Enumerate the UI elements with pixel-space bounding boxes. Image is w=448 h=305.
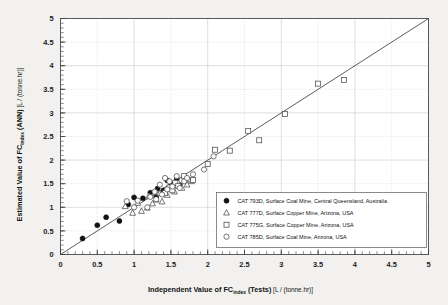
- data-point-filled-circle: [95, 223, 100, 228]
- data-point-open-circle: [167, 179, 172, 184]
- data-point-open-circle: [190, 172, 195, 177]
- data-point-open-circle: [152, 189, 157, 194]
- data-point-open-circle: [165, 187, 170, 192]
- y-axis-tick-label: 2.5: [43, 132, 53, 141]
- data-point-open-circle: [157, 182, 162, 187]
- data-point-open-circle: [174, 174, 179, 179]
- data-point-filled-circle: [140, 196, 145, 201]
- data-point-open-circle: [132, 205, 137, 210]
- data-point-open-square: [213, 147, 218, 152]
- data-point-filled-circle: [104, 215, 109, 220]
- x-axis-tick-label: 2.5: [239, 260, 249, 269]
- legend-item-label: CAT 793D, Surface Coal Mine, Central Que…: [238, 198, 389, 204]
- data-point-open-square: [282, 111, 287, 116]
- data-point-open-square: [227, 148, 232, 153]
- chart-figure: 00.511.522.533.544.5500.511.522.533.544.…: [0, 0, 448, 305]
- x-axis-tick-label: 0.5: [92, 260, 102, 269]
- data-point-open-circle: [145, 205, 150, 210]
- legend-item-label: CAT 777D, Surface Copper Mine, Arizona, …: [238, 210, 354, 216]
- y-axis-title: Estimated Value of FCindex (ANN) [L / (t…: [15, 67, 25, 221]
- x-axis-tick-label: 0: [58, 260, 62, 269]
- scatter-plot: 00.511.522.533.544.5500.511.522.533.544.…: [0, 0, 448, 305]
- data-point-open-circle: [177, 185, 182, 190]
- data-point-open-circle: [184, 175, 189, 180]
- legend-item-label: CAT 785D, Surface Coal Mine, Arizona, US…: [238, 234, 348, 240]
- data-point-open-square: [257, 138, 262, 143]
- x-axis-tick-label: 2: [206, 260, 210, 269]
- data-point-open-circle: [224, 234, 229, 239]
- x-axis-tick-label: 4.5: [387, 260, 397, 269]
- data-point-open-circle: [201, 167, 206, 172]
- data-point-open-circle: [148, 194, 153, 199]
- y-axis-tick-label: 2: [49, 156, 53, 165]
- y-axis-tick-label: 4.5: [43, 38, 53, 47]
- data-point-open-square: [224, 222, 229, 227]
- data-point-open-square: [246, 128, 251, 133]
- data-point-open-circle: [211, 154, 216, 159]
- x-axis-tick-label: 1: [132, 260, 136, 269]
- data-point-open-square: [205, 161, 210, 166]
- y-axis-tick-label: 4: [49, 61, 54, 70]
- data-point-open-circle: [124, 199, 129, 204]
- x-axis-title: Independent Value of FCindex (Tests) [L …: [148, 285, 313, 295]
- x-axis-tick-label: 5: [426, 260, 430, 269]
- x-axis-tick-label: 4: [353, 260, 358, 269]
- y-axis-tick-label: 3: [49, 109, 53, 118]
- data-point-filled-circle: [117, 218, 122, 223]
- x-axis-tick-label: 1.5: [166, 260, 176, 269]
- legend-item-label: CAT 775G, Surface Copper Mine, Arizona, …: [238, 222, 355, 228]
- data-point-open-circle: [135, 198, 140, 203]
- data-point-open-circle: [170, 184, 175, 189]
- data-point-open-square: [341, 77, 346, 82]
- data-point-open-circle: [162, 175, 167, 180]
- data-point-open-square: [190, 177, 195, 182]
- y-axis-tick-label: 1: [49, 203, 53, 212]
- y-axis-tick-label: 0: [49, 250, 53, 259]
- x-axis-tick-label: 3.5: [313, 260, 323, 269]
- y-axis-tick-label: 1.5: [43, 179, 53, 188]
- x-axis-tick-label: 3: [279, 260, 283, 269]
- data-point-filled-circle: [224, 198, 229, 203]
- y-axis-tick-label: 0.5: [43, 227, 53, 236]
- data-point-open-circle: [154, 197, 159, 202]
- data-point-open-circle: [159, 192, 164, 197]
- data-point-open-square: [316, 81, 321, 86]
- y-axis-tick-label: 3.5: [43, 85, 53, 94]
- y-axis-tick-label: 5: [49, 14, 53, 23]
- data-point-filled-circle: [80, 236, 85, 241]
